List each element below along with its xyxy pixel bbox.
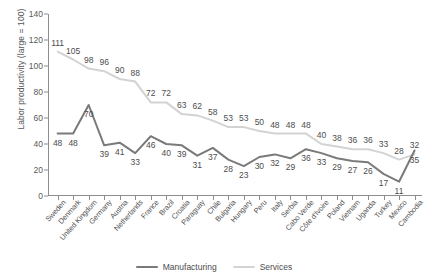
value-label: 41 <box>115 148 124 157</box>
value-label: 58 <box>208 108 217 117</box>
legend-label: Services <box>260 262 293 272</box>
value-label: 29 <box>332 163 341 172</box>
value-label: 40 <box>317 131 326 140</box>
y-axis-title: Labor productivity (large = 100) <box>16 0 26 144</box>
x-axis-category-labels: SwedenDenmarkUnited KingdomGermanyAustri… <box>48 198 422 254</box>
value-label: 31 <box>193 161 202 170</box>
value-label: 36 <box>301 154 310 163</box>
value-label: 11 <box>395 187 404 196</box>
value-label: 26 <box>363 167 372 176</box>
value-label: 36 <box>363 136 372 145</box>
value-label: 105 <box>66 47 80 56</box>
value-label: 39 <box>99 150 108 159</box>
value-label: 27 <box>348 166 357 175</box>
value-label: 29 <box>286 163 295 172</box>
value-label: 88 <box>130 69 139 78</box>
value-label: 98 <box>84 56 93 65</box>
value-label: 53 <box>239 114 248 123</box>
value-label: 33 <box>317 158 326 167</box>
value-label: 46 <box>146 141 155 150</box>
value-label: 30 <box>255 162 264 171</box>
value-label: 48 <box>301 121 310 130</box>
legend-item-services[interactable]: Services <box>233 262 293 272</box>
labor-productivity-line-chart: Labor productivity (large = 100) 0204060… <box>0 0 428 278</box>
value-label: 48 <box>53 139 62 148</box>
plot-area: 020406080100120140 484870394133464039313… <box>48 14 422 196</box>
value-label: 32 <box>270 159 279 168</box>
series-line-manufacturing <box>58 105 415 182</box>
value-label: 62 <box>193 102 202 111</box>
value-label: 33 <box>130 158 139 167</box>
legend-label: Manufacturing <box>163 262 217 272</box>
value-label: 90 <box>115 66 124 75</box>
value-label: 37 <box>208 153 217 162</box>
legend-swatch-icon <box>136 266 158 268</box>
value-label: 48 <box>286 121 295 130</box>
value-label: 72 <box>146 89 155 98</box>
value-label: 50 <box>255 118 264 127</box>
legend-swatch-icon <box>233 266 255 268</box>
value-label: 28 <box>224 165 233 174</box>
value-label: 17 <box>379 179 388 188</box>
value-label: 70 <box>84 110 93 119</box>
value-label: 32 <box>410 141 419 150</box>
value-label: 35 <box>410 156 419 165</box>
value-label: 63 <box>177 101 186 110</box>
value-label: 40 <box>162 149 171 158</box>
value-label: 48 <box>68 139 77 148</box>
value-label: 28 <box>394 147 403 156</box>
x-category-label: Peru <box>252 198 269 215</box>
legend-item-manufacturing[interactable]: Manufacturing <box>136 262 217 272</box>
chart-legend: ManufacturingServices <box>0 262 428 272</box>
value-label: 96 <box>99 58 108 67</box>
value-label: 33 <box>379 140 388 149</box>
value-label: 36 <box>348 136 357 145</box>
value-label: 53 <box>224 114 233 123</box>
value-label: 111 <box>51 39 64 48</box>
value-label: 48 <box>270 121 279 130</box>
value-label: 72 <box>162 89 171 98</box>
value-label: 23 <box>239 171 248 180</box>
value-label: 39 <box>177 150 186 159</box>
value-label: 38 <box>332 134 341 143</box>
